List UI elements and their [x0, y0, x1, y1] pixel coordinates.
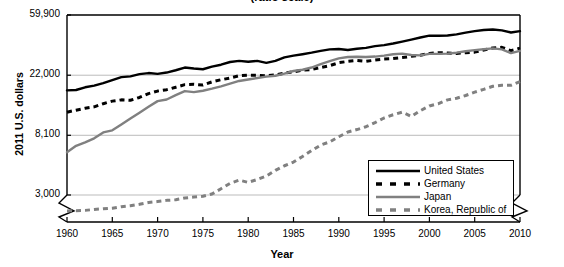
legend-label: Korea, Republic of	[424, 204, 506, 215]
legend: United StatesGermanyJapanKorea, Republic…	[368, 160, 514, 216]
legend-item: Germany	[369, 177, 515, 191]
legend-swatch	[375, 190, 421, 204]
series-line	[67, 29, 520, 90]
legend-swatch	[375, 164, 421, 178]
legend-item: Japan	[369, 190, 515, 204]
chart-container: (ratio scale) 2011 U.S. dollars Year 3,0…	[0, 0, 564, 267]
plot-area	[0, 0, 564, 267]
series-line	[67, 48, 520, 152]
legend-item: Korea, Republic of	[369, 203, 515, 217]
legend-item: United States	[369, 164, 515, 178]
legend-swatch	[375, 177, 421, 191]
legend-label: United States	[424, 165, 484, 176]
legend-swatch	[375, 203, 421, 217]
legend-label: Germany	[424, 178, 465, 189]
series-line	[67, 47, 520, 112]
legend-label: Japan	[424, 191, 451, 202]
